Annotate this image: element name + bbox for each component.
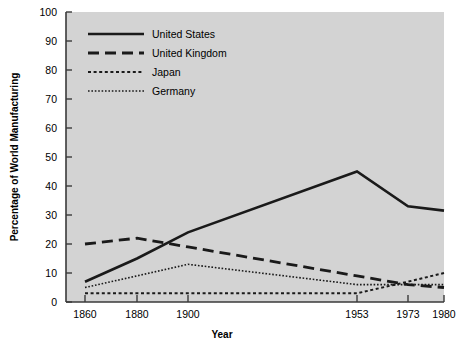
x-tick-label: 1953 — [345, 308, 369, 320]
y-tick-label: 40 — [45, 180, 57, 192]
x-tick-label: 1980 — [432, 308, 456, 320]
y-tick-label: 50 — [45, 151, 57, 163]
y-tick-label: 70 — [45, 93, 57, 105]
x-tick-label: 1900 — [176, 308, 200, 320]
y-tick-label: 80 — [45, 64, 57, 76]
y-axis-title: Percentage of World Manufacturing — [9, 73, 20, 242]
legend-label: Japan — [152, 66, 181, 78]
y-tick-label: 10 — [45, 267, 57, 279]
x-axis-title: Year — [211, 329, 232, 340]
y-tick-label: 30 — [45, 209, 57, 221]
x-tick-label: 1860 — [73, 308, 97, 320]
legend-label: United Kingdom — [152, 47, 227, 59]
legend-label: Germany — [152, 85, 196, 97]
x-tick-label: 1973 — [396, 308, 420, 320]
chart-container: 0102030405060708090100 18601880190019531… — [0, 0, 459, 345]
x-axis-tick-labels: 186018801900195319731980 — [73, 308, 456, 320]
y-tick-label: 0 — [51, 296, 57, 308]
y-tick-label: 100 — [39, 6, 57, 18]
y-axis-tick-labels: 0102030405060708090100 — [39, 6, 57, 308]
y-tick-label: 20 — [45, 238, 57, 250]
line-chart: 0102030405060708090100 18601880190019531… — [0, 0, 459, 345]
y-tick-label: 90 — [45, 35, 57, 47]
legend-label: United States — [152, 28, 215, 40]
y-tick-label: 60 — [45, 122, 57, 134]
x-tick-label: 1880 — [125, 308, 149, 320]
